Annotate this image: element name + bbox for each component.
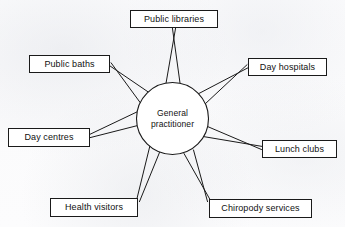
node-label-public-libraries: Public libraries	[144, 15, 204, 24]
node-label-lunch-clubs: Lunch clubs	[275, 145, 324, 154]
node-health-visitors[interactable]: Health visitors	[50, 198, 138, 217]
node-public-baths[interactable]: Public baths	[29, 55, 110, 73]
hub-label-line2: practitioner	[133, 119, 213, 130]
radial-diagram-canvas: General practitioner Public libraries Pu…	[0, 0, 345, 227]
node-label-day-hospitals: Day hospitals	[260, 63, 315, 72]
node-day-hospitals[interactable]: Day hospitals	[248, 58, 327, 76]
node-label-health-visitors: Health visitors	[65, 203, 123, 212]
node-day-centres[interactable]: Day centres	[8, 128, 90, 147]
node-chiropody-services[interactable]: Chiropody services	[209, 199, 312, 218]
node-label-day-centres: Day centres	[24, 133, 73, 142]
node-public-libraries[interactable]: Public libraries	[130, 10, 218, 28]
hub-label-line1: General	[133, 108, 213, 119]
node-lunch-clubs[interactable]: Lunch clubs	[262, 140, 337, 158]
node-label-public-baths: Public baths	[44, 60, 94, 69]
hub-label: General practitioner	[133, 108, 213, 130]
node-label-chiropody-services: Chiropody services	[221, 204, 299, 213]
